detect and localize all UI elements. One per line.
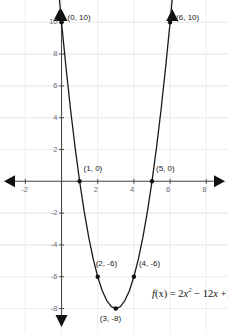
point-coordinate-label: (2, -6) — [96, 259, 117, 268]
data-point-marker — [114, 306, 118, 310]
data-point-marker — [77, 179, 81, 183]
point-coordinate-label: (3, -8) — [100, 314, 121, 323]
y-axis-tick-label: 8 — [53, 49, 57, 58]
x-axis-tick-label: 4 — [130, 185, 134, 194]
point-coordinate-label: (1, 0) — [84, 164, 103, 173]
y-axis-tick-label: 10 — [49, 17, 57, 26]
y-axis-tick-label: 2 — [53, 145, 57, 154]
data-point-marker — [150, 179, 154, 183]
data-point-marker — [168, 20, 172, 24]
x-axis-tick-label: 8 — [202, 185, 206, 194]
x-axis-tick-label: -2 — [21, 185, 28, 194]
coordinate-plane — [0, 0, 228, 334]
y-axis-tick-label: 6 — [53, 81, 57, 90]
y-axis-tick-label: -4 — [51, 240, 58, 249]
y-axis-tick-label: -8 — [51, 304, 58, 313]
x-axis-tick-label: 2 — [94, 185, 98, 194]
data-point-marker — [96, 275, 100, 279]
point-coordinate-label: (6, 10) — [176, 13, 199, 22]
y-axis-tick-label: -2 — [51, 208, 58, 217]
gridlines — [0, 0, 228, 334]
point-coordinate-label: (5, 0) — [156, 164, 175, 173]
axes — [4, 9, 225, 327]
parabola-graph: -22468108642-2-4-6-8(0, 10)(6, 10)(1, 0)… — [0, 0, 228, 334]
data-point-marker — [132, 275, 136, 279]
y-axis-tick-label: -6 — [51, 272, 58, 281]
point-coordinate-label: (4, -6) — [139, 259, 160, 268]
data-point-marker — [59, 20, 63, 24]
y-axis-tick-label: 4 — [53, 113, 57, 122]
x-axis-tick-label: 6 — [166, 185, 170, 194]
function-equation-label: f(x) = 2x2 − 12x +10 — [152, 286, 228, 299]
point-coordinate-label: (0, 10) — [68, 13, 91, 22]
